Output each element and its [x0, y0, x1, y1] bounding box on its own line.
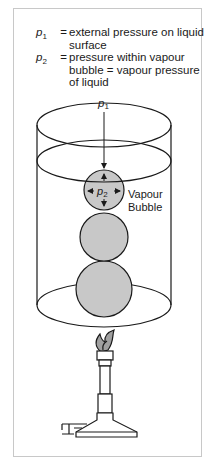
boiling-diagram: p1 p2 Vapour Bubble [0, 0, 206, 473]
vapour-bubble-large [76, 261, 132, 317]
bunsen-burner [62, 330, 137, 437]
burner-neck [99, 360, 111, 366]
vapour-bubble-medium [80, 213, 128, 261]
burner-air-collar [98, 394, 112, 413]
flame-icon [96, 330, 114, 352]
burner-barrel [100, 366, 110, 394]
vapour-label: Vapour [128, 188, 163, 200]
burner-collar [97, 351, 113, 360]
bubble-label: Bubble [128, 201, 162, 213]
p1-label: p1 [97, 97, 109, 111]
burner-base [76, 413, 137, 437]
